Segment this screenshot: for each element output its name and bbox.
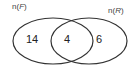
intersection-value: 4 <box>64 33 70 45</box>
set-r-only-value: 6 <box>96 33 102 45</box>
set-f-only-value: 14 <box>26 33 38 45</box>
set-f-circle <box>13 18 93 64</box>
set-f-label: n(F) <box>12 2 27 11</box>
set-r-circle <box>51 18 127 64</box>
set-r-label: n(R) <box>108 6 124 15</box>
